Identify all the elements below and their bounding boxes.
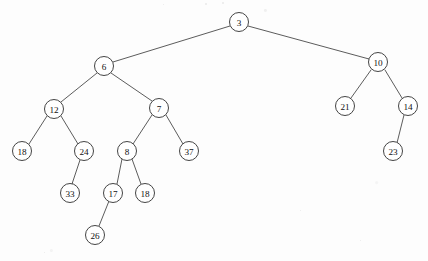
tree-edge	[99, 201, 109, 226]
node-label: 8	[125, 147, 130, 157]
node-label: 3	[237, 18, 242, 28]
node-label: 12	[50, 105, 59, 115]
node-label: 26	[91, 231, 100, 241]
node-label: 23	[389, 147, 398, 157]
tree-node[interactable]: 8	[118, 142, 137, 161]
tree-node[interactable]: 10	[369, 53, 388, 72]
tree-edge	[132, 159, 141, 184]
node-label: 33	[66, 189, 75, 199]
tree-node[interactable]: 21	[336, 97, 355, 116]
scan-speck	[44, 252, 45, 253]
tree-edge	[61, 73, 97, 102]
node-label: 37	[185, 147, 194, 157]
node-label: 7	[157, 104, 162, 114]
tree-graph: 3610127211418248372333171826	[0, 0, 428, 261]
tree-edge	[166, 115, 183, 144]
edges-group	[29, 26, 404, 226]
scan-speck	[222, 2, 224, 4]
tree-diagram-canvas: 3610127211418248372333171826	[0, 0, 428, 261]
node-label: 10	[374, 58, 383, 68]
node-label: 17	[109, 189, 118, 199]
tree-node[interactable]: 18	[136, 184, 155, 203]
scan-speck	[300, 210, 301, 211]
node-label: 6	[102, 62, 107, 72]
node-label: 14	[404, 102, 413, 112]
tree-node[interactable]: 6	[95, 57, 114, 76]
node-label: 21	[341, 102, 350, 112]
tree-node[interactable]: 17	[104, 184, 123, 203]
tree-edge	[385, 70, 402, 98]
tree-edge	[72, 160, 80, 184]
node-label: 18	[141, 189, 150, 199]
tree-edge	[61, 116, 78, 144]
node-label: 18	[18, 147, 27, 157]
scan-speck	[360, 240, 361, 241]
tree-edge	[351, 70, 371, 98]
tree-node[interactable]: 18	[13, 142, 32, 161]
tree-edge	[133, 115, 152, 144]
tree-node[interactable]: 24	[75, 142, 94, 161]
scan-speck	[163, 4, 164, 5]
tree-edge	[113, 26, 230, 62]
tree-node[interactable]: 14	[399, 97, 418, 116]
tree-node[interactable]: 3	[230, 13, 249, 32]
tree-node[interactable]: 37	[180, 142, 199, 161]
tree-node[interactable]: 26	[86, 226, 105, 245]
scan-speck	[205, 3, 207, 5]
tree-edge	[397, 115, 404, 143]
nodes-group: 3610127211418248372333171826	[13, 13, 418, 245]
tree-node[interactable]: 12	[45, 100, 64, 119]
node-label: 24	[80, 147, 89, 157]
tree-node[interactable]: 33	[61, 184, 80, 203]
tree-edge	[111, 73, 152, 101]
tree-edge	[117, 159, 122, 184]
tree-edge	[248, 26, 369, 59]
tree-node[interactable]: 23	[384, 142, 403, 161]
tree-edge	[29, 116, 47, 144]
tree-node[interactable]: 7	[150, 99, 169, 118]
